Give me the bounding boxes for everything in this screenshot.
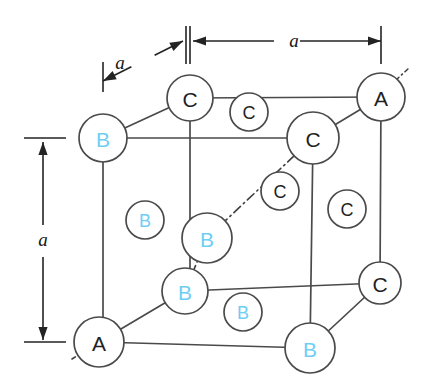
atom-label: B (178, 281, 192, 304)
stub-upper-right (396, 68, 409, 80)
dimension-arrowhead (38, 142, 47, 155)
atom-label: A (92, 332, 106, 355)
dimension-arrowhead (368, 36, 381, 45)
dimension-label: a (115, 52, 125, 73)
atom-face-diagonal: C (261, 172, 299, 210)
atom-label: C (341, 200, 354, 220)
atom-label: B (303, 338, 317, 361)
atom-back-top-right: C (167, 75, 213, 121)
atom-label: B (96, 128, 110, 151)
atom-right-bottom-rear: C (359, 262, 401, 304)
atom-label: C (243, 103, 256, 123)
atom-label: A (374, 87, 388, 110)
crystal-structure-figure: aaa BCACCBCCBBBABC (0, 0, 433, 392)
edge-right-front-vertical (310, 138, 313, 348)
atom-label: B (139, 211, 151, 231)
edge-bottom-middle (185, 283, 380, 291)
figure-canvas: aaa BCACCBCCBBBABC (0, 0, 433, 392)
atom-top-right-front: C (287, 112, 339, 164)
atom-back-top-left: B (79, 114, 127, 162)
atom-label: C (372, 273, 387, 296)
atom-front-bottom-right: B (285, 323, 335, 373)
atom-front-bottom-left: A (74, 317, 124, 367)
dimension-arrowhead (38, 327, 47, 340)
atom-body-center: B (182, 213, 232, 263)
edge-top-rear (190, 97, 381, 98)
dimension-arrowhead (103, 71, 117, 81)
edge-right-rear-vertical (380, 97, 381, 283)
atom-label: B (200, 228, 214, 251)
edge-bottom-front (99, 342, 310, 348)
atom-label: C (182, 88, 197, 111)
dimension-arrowhead (169, 41, 183, 51)
atom-face-bottom: B (224, 293, 262, 331)
dimension-label: a (38, 229, 48, 250)
atom-face-left: B (126, 201, 164, 239)
atom-label: C (274, 182, 287, 202)
atom-label: C (305, 128, 320, 151)
dimension-left-vertical: a (24, 138, 66, 342)
atom-face-top: C (230, 93, 268, 131)
atom-top-right-rear: A (357, 73, 405, 121)
atom-face-right: C (328, 190, 366, 228)
dimension-top-right-horizontal: a (190, 26, 381, 64)
dimension-label: a (289, 30, 299, 51)
atom-label: B (237, 303, 249, 323)
dimension-arrowhead (193, 36, 206, 45)
atom-front-top-left: B (162, 268, 208, 314)
